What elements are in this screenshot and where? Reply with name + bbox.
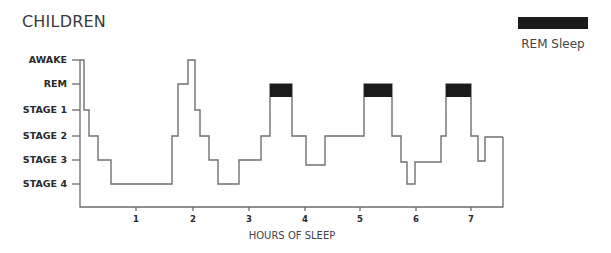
rem-block-2 [364, 84, 392, 97]
y-axis-labels: AWAKE REM STAGE 1 STAGE 2 STAGE 3 STAGE … [23, 54, 68, 189]
y-axis-ticks [72, 60, 80, 184]
chart-title: CHILDREN [22, 12, 106, 31]
x-label-3: 3 [246, 214, 252, 224]
rem-block-1 [270, 84, 292, 97]
x-axis-title: HOURS OF SLEEP [249, 230, 336, 241]
y-label-stage1: STAGE 1 [23, 104, 67, 115]
x-label-5: 5 [357, 214, 363, 224]
x-label-1: 1 [133, 214, 139, 224]
y-label-stage4: STAGE 4 [23, 178, 68, 189]
sleep-stage-trace [80, 60, 503, 184]
x-label-4: 4 [302, 214, 308, 224]
legend-rem-swatch [518, 17, 588, 29]
y-label-awake: AWAKE [29, 54, 67, 65]
legend-rem-label: REM Sleep [521, 37, 584, 51]
y-label-stage2: STAGE 2 [23, 130, 67, 141]
x-axis-labels: 1 2 3 4 5 6 7 [133, 214, 474, 224]
x-label-6: 6 [413, 214, 419, 224]
y-label-rem: REM [44, 78, 67, 89]
x-label-7: 7 [468, 214, 474, 224]
chart-svg: CHILDREN REM Sleep AWAKE REM STAGE 1 STA… [0, 0, 611, 253]
x-label-2: 2 [190, 214, 196, 224]
rem-block-3 [446, 84, 471, 97]
hypnogram-chart: CHILDREN REM Sleep AWAKE REM STAGE 1 STA… [0, 0, 611, 253]
y-label-stage3: STAGE 3 [23, 154, 67, 165]
